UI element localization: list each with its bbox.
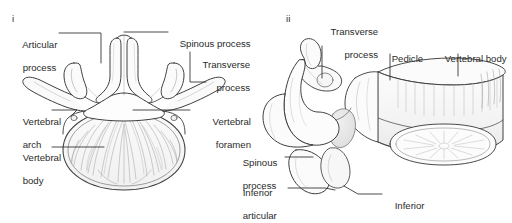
label-pedicle: Pedicle xyxy=(381,41,423,76)
label-inferior-articular-process: Inferior articular process xyxy=(232,175,284,223)
label-transverse-process-ii-line1: Transverse xyxy=(331,26,379,37)
label-articular-process-line2: process xyxy=(23,62,57,73)
label-inferior-articular-facet-line1: Inferior xyxy=(395,200,425,211)
label-transverse-process-line2: process xyxy=(216,82,250,93)
panel-i-identifier: i xyxy=(12,13,14,24)
arch-nub-right xyxy=(171,115,177,120)
label-vertebral-body-ii-line1: Vertebral body xyxy=(445,53,507,64)
vertebral-foramen-outline xyxy=(84,93,165,121)
label-vertebral-arch-line1: Vertebral xyxy=(23,116,61,127)
label-inferior-articular-process-line2: articular xyxy=(243,210,277,221)
label-articular-process-line1: Articular xyxy=(22,39,57,50)
label-transverse-process-line1: Transverse xyxy=(203,59,251,70)
label-vertebral-body-ii: Vertebral body xyxy=(434,41,507,76)
label-inferior-articular-process-line1: Inferior xyxy=(243,187,273,198)
label-transverse-process-ii-line2: process xyxy=(344,49,378,60)
label-inferior-articular-facet: Inferior articular facet xyxy=(384,188,460,223)
leader-inferior-articular-facet-ii xyxy=(344,186,382,194)
label-spinous-process-ii-line1: Spinous xyxy=(243,157,278,168)
panel-ii-identifier: ii xyxy=(286,13,290,24)
label-pedicle-line1: Pedicle xyxy=(392,53,423,64)
leader-articular-process xyxy=(59,33,101,63)
label-vertebral-body-line1: Vertebral xyxy=(23,152,61,163)
label-articular-process: Articular process xyxy=(12,27,60,85)
label-transverse-process: Transverse process xyxy=(192,47,250,105)
label-transverse-process-ii: Transverse process xyxy=(320,14,378,72)
label-vertebral-body: Vertebral body xyxy=(12,140,60,198)
label-vertebral-foramen-line1: Vertebral xyxy=(213,116,251,127)
arch-nub-left xyxy=(71,115,77,120)
inferior-endplate-outline xyxy=(390,124,496,165)
anatomical-figure: i Articular process Spinous process Tran… xyxy=(0,0,512,223)
label-vertebral-body-line2: body xyxy=(23,175,44,186)
transverse-process-tubercle xyxy=(317,73,333,87)
